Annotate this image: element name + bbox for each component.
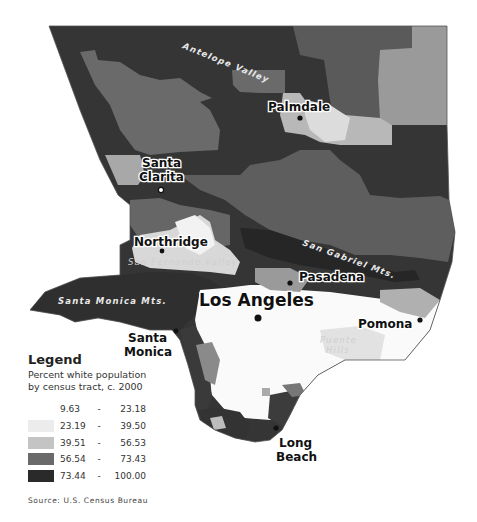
legend: Legend Percent white population by censu…: [28, 352, 218, 484]
city-dot-pasadena: [287, 280, 292, 285]
city-dot-los-angeles: [255, 315, 262, 322]
legend-subtitle-line2: by census tract, c. 2000: [28, 381, 218, 393]
label-santa-monica-1: Santa: [128, 331, 167, 345]
legend-sep-1: -: [90, 404, 108, 414]
legend-low-4: 56.54: [60, 454, 90, 464]
legend-row-3: 39.51 - 56.53: [28, 434, 218, 451]
source-note: Source: U.S. Census Bureau: [28, 496, 148, 505]
legend-swatch-4: [28, 453, 54, 465]
legend-classes: 9.63 - 23.18 23.19 - 39.50 39.51 - 56.53…: [28, 401, 218, 484]
legend-swatch-1: [28, 403, 54, 415]
label-pasadena: Pasadena: [299, 270, 364, 284]
legend-low-2: 23.19: [60, 421, 90, 431]
legend-row-5: 73.44 - 100.00: [28, 468, 218, 485]
label-long-beach-1: Long: [279, 436, 312, 450]
legend-high-5: 100.00: [108, 471, 146, 481]
legend-low-3: 39.51: [60, 438, 90, 448]
city-dot-palmdale: [297, 115, 302, 120]
region-patch: [262, 388, 270, 396]
label-santa-clarita-1: Santa: [142, 156, 181, 170]
city-dot-long-beach: [273, 425, 278, 430]
legend-sep-5: -: [90, 471, 108, 481]
legend-swatch-2: [28, 420, 54, 432]
label-long-beach-2: Beach: [276, 450, 317, 464]
legend-sep-3: -: [90, 438, 108, 448]
legend-sep-2: -: [90, 421, 108, 431]
label-puente-hills-2: Hills: [326, 345, 350, 355]
city-dot-santa-clarita: [158, 187, 163, 192]
legend-high-1: 23.18: [108, 404, 146, 414]
legend-low-1: 9.63: [60, 404, 90, 414]
legend-swatch-3: [28, 437, 54, 449]
legend-low-5: 73.44: [60, 471, 90, 481]
legend-subtitle: Percent white population by census tract…: [28, 369, 218, 393]
legend-high-3: 56.53: [108, 438, 146, 448]
label-los-angeles: Los Angeles: [199, 290, 314, 310]
city-dot-pomona: [417, 317, 422, 322]
label-santa-clarita-2: Clarita: [139, 170, 184, 184]
label-pomona: Pomona: [358, 317, 412, 331]
legend-subtitle-line1: Percent white population: [28, 369, 218, 381]
legend-row-1: 9.63 - 23.18: [28, 401, 218, 418]
label-santa-monica-mts: Santa Monica Mts.: [58, 296, 167, 306]
legend-sep-4: -: [90, 454, 108, 464]
city-dot-northridge: [160, 249, 165, 254]
label-puente-hills-1: Puente: [320, 335, 357, 345]
label-northridge: Northridge: [134, 235, 208, 249]
label-san-fernando-valley: San Fernando Valley: [128, 257, 238, 267]
legend-high-2: 39.50: [108, 421, 146, 431]
legend-row-4: 56.54 - 73.43: [28, 451, 218, 468]
legend-row-2: 23.19 - 39.50: [28, 418, 218, 435]
legend-high-4: 73.43: [108, 454, 146, 464]
city-dot-santa-monica: [174, 329, 179, 334]
label-palmdale: Palmdale: [268, 100, 330, 114]
legend-title: Legend: [28, 352, 218, 367]
legend-swatch-5: [28, 470, 54, 482]
